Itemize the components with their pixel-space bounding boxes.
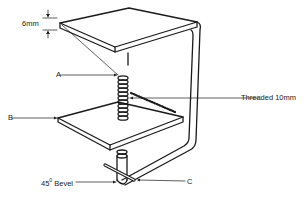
label-a: A	[56, 71, 61, 79]
bevel-word: Bevel	[54, 179, 73, 188]
thickness-label: 6mm	[22, 20, 39, 28]
lower-shaft	[117, 150, 127, 184]
bottom-plate	[58, 102, 183, 150]
clamp-diagram: 6mm A B Threaded 10mm C 450 Bevel	[0, 0, 304, 197]
threaded-label: Threaded 10mm	[241, 94, 296, 102]
label-b: B	[8, 114, 13, 122]
label-c: C	[187, 178, 192, 186]
degree-symbol: 0	[49, 177, 52, 183]
bevel-label: 450 Bevel	[41, 178, 73, 187]
t-handle	[105, 165, 134, 180]
top-plate	[60, 8, 197, 52]
